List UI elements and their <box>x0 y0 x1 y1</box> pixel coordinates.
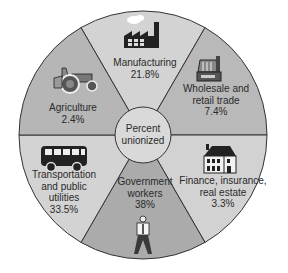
label-manufacturing-name: Manufacturing <box>113 57 176 69</box>
label-government-line2: workers <box>117 188 172 200</box>
label-government: Government workers 38% <box>117 176 172 211</box>
label-transportation-line1: Transportation <box>32 169 96 181</box>
label-wholesale-value: 7.4% <box>183 106 249 118</box>
house-icon <box>204 144 236 173</box>
label-finance-line1: Finance, insurance, <box>179 175 266 187</box>
center-label: Percent unionized <box>122 123 165 147</box>
label-transportation: Transportation and public utilities 33.5… <box>32 169 96 215</box>
label-manufacturing-value: 21.8% <box>113 69 176 81</box>
label-finance-value: 3.3% <box>179 198 266 210</box>
label-wholesale-line2: retail trade <box>183 95 249 107</box>
label-wholesale-line1: Wholesale and <box>183 83 249 95</box>
label-transportation-value: 33.5% <box>32 204 96 216</box>
label-transportation-line3: utilities <box>32 192 96 204</box>
label-agriculture-value: 2.4% <box>49 114 97 126</box>
cash-register-icon <box>197 56 221 81</box>
label-finance-line2: real estate <box>179 187 266 199</box>
center-label-line2: unionized <box>122 135 165 147</box>
label-agriculture-name: Agriculture <box>49 102 97 114</box>
label-manufacturing: Manufacturing 21.8% <box>113 57 176 80</box>
label-transportation-line2: and public <box>32 181 96 193</box>
label-government-line1: Government <box>117 176 172 188</box>
label-government-value: 38% <box>117 199 172 211</box>
label-wholesale: Wholesale and retail trade 7.4% <box>183 83 249 118</box>
label-finance: Finance, insurance, real estate 3.3% <box>179 175 266 210</box>
label-agriculture: Agriculture 2.4% <box>49 102 97 125</box>
center-label-line1: Percent <box>122 123 165 135</box>
